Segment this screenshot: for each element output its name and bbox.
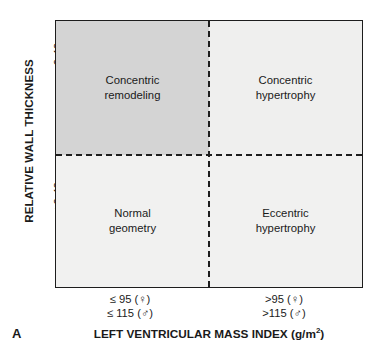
x-axis-title-suffix: )	[320, 327, 324, 341]
quadrant-concentric-remodeling: Concentric remodeling	[56, 21, 209, 155]
x-axis-tick-right: >95 (♀) >115 (♂)	[209, 292, 359, 321]
quadrant-label: Eccentric hypertrophy	[256, 206, 316, 236]
plot-frame: Concentric remodeling Concentric hypertr…	[55, 20, 363, 288]
x-axis-title: LEFT VENTRICULAR MASS INDEX (g/m2)	[55, 327, 363, 341]
quadrant-label-line2: geometry	[109, 222, 156, 234]
quadrant-label: Concentric remodeling	[105, 73, 161, 103]
x-axis-tick-right-line2: >115 (♂)	[209, 306, 359, 320]
quadrant-label-line1: Normal	[114, 207, 150, 219]
quadrant-label-line1: Concentric	[259, 74, 313, 86]
quadrant-label: Concentric hypertrophy	[256, 73, 316, 103]
x-axis-title-main: LEFT VENTRICULAR MASS INDEX (g/m	[94, 327, 316, 341]
panel-label: A	[12, 326, 21, 341]
quadrant-normal-geometry: Normal geometry	[56, 155, 209, 287]
quadrant-concentric-hypertrophy: Concentric hypertrophy	[209, 21, 362, 155]
x-axis-tick-left-line2: ≤ 115 (♂)	[55, 306, 205, 320]
quadrant-label-line1: Eccentric	[262, 207, 308, 219]
quadrant-label-line1: Concentric	[105, 74, 159, 86]
quadrant-label-line2: hypertrophy	[256, 222, 316, 234]
quadrant-label-line2: hypertrophy	[256, 89, 316, 101]
x-axis-tick-right-line1: >95 (♀)	[209, 292, 359, 306]
y-axis-title: RELATIVE WALL THICKNESS	[23, 26, 35, 256]
x-axis-tick-left-line1: ≤ 95 (♀)	[55, 292, 205, 306]
lv-geometry-figure: RELATIVE WALL THICKNESS > 0.42 ≤ 0.42 Co…	[0, 0, 380, 356]
quadrant-label-line2: remodeling	[105, 89, 161, 101]
x-axis-tick-left: ≤ 95 (♀) ≤ 115 (♂)	[55, 292, 205, 321]
horizontal-dashed-divider	[56, 154, 362, 156]
quadrant-eccentric-hypertrophy: Eccentric hypertrophy	[209, 155, 362, 287]
quadrant-label: Normal geometry	[109, 206, 156, 236]
